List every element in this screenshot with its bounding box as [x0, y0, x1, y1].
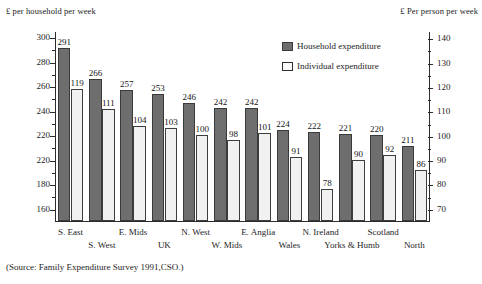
bar-value-label-household: 291 [53, 37, 75, 47]
bar-value-label-individual: 86 [411, 159, 431, 169]
bar-household [183, 103, 196, 221]
source-caption: (Source: Family Expenditure Survey 1991,… [6, 262, 183, 272]
bar-household [120, 90, 133, 221]
bar-individual [383, 155, 396, 221]
right-tick-label: 140 [437, 33, 451, 43]
bar-value-label-household: 253 [147, 83, 169, 93]
right-minor-tick-mark [428, 51, 431, 52]
bar-group: 246100 [183, 31, 209, 221]
left-minor-tick-mark [52, 124, 55, 125]
bar-household [402, 146, 415, 221]
bar-individual [102, 109, 115, 221]
right-minor-tick-mark [428, 149, 431, 150]
left-axis-title: £ per household per week [6, 6, 96, 16]
bar-household [308, 132, 321, 220]
bar-value-label-household: 222 [303, 121, 325, 131]
category-label: W. Mids [195, 240, 259, 250]
right-tick-label: 90 [437, 155, 446, 165]
category-label: Wales [257, 240, 321, 250]
left-tick-label: 180 [37, 179, 51, 189]
bar-value-label-household: 246 [178, 92, 200, 102]
right-tick-label: 70 [437, 204, 446, 214]
bar-group: 291119 [58, 31, 84, 221]
right-tick-label: 120 [437, 82, 451, 92]
left-minor-tick-mark [52, 50, 55, 51]
left-minor-tick-mark [52, 197, 55, 198]
bar-individual [321, 189, 334, 221]
bar-group: 24298 [214, 31, 240, 221]
right-tick-mark [428, 137, 433, 138]
expenditure-bar-chart: £ per household per week £ Per person pe… [0, 0, 482, 284]
bar-group: 22278 [308, 31, 334, 221]
left-tick-label: 280 [37, 57, 51, 67]
bar-household [277, 130, 290, 221]
bar-value-label-household: 224 [272, 119, 294, 129]
bar-value-label-household: 221 [334, 123, 356, 133]
bar-value-label-individual: 111 [98, 98, 118, 108]
left-axis-line [55, 32, 56, 222]
bar-group: 22190 [339, 31, 365, 221]
category-label: S. East [39, 227, 103, 237]
bar-value-label-household: 242 [241, 97, 263, 107]
bar-value-label-household: 257 [116, 79, 138, 89]
left-tick-mark [50, 210, 55, 211]
bar-individual [258, 133, 271, 221]
category-label: Scotland [351, 227, 415, 237]
left-tick-label: 300 [37, 32, 51, 42]
bar-household [58, 48, 71, 221]
bar-group: 242101 [245, 31, 271, 221]
bar-value-label-household: 266 [84, 68, 106, 78]
right-minor-tick-mark [428, 198, 431, 199]
bar-individual [352, 160, 365, 221]
right-tick-label: 100 [437, 131, 451, 141]
right-axis-line [429, 32, 430, 222]
bar-household [214, 108, 227, 221]
bar-value-label-individual: 98 [223, 129, 243, 139]
bar-value-label-individual: 104 [130, 115, 150, 125]
bar-value-label-household: 211 [397, 135, 419, 145]
plot-area: 300280260240220220180160 140130120110100… [55, 32, 430, 222]
bar-individual [290, 157, 303, 220]
left-tick-label: 220 [37, 130, 51, 140]
left-minor-tick-mark [52, 148, 55, 149]
right-minor-tick-mark [428, 173, 431, 174]
bar-value-label-individual: 90 [348, 149, 368, 159]
bar-value-label-household: 220 [366, 124, 388, 134]
left-tick-label: 220 [37, 155, 51, 165]
bar-group: 253103 [152, 31, 178, 221]
right-axis-title: £ Per person per week [400, 6, 478, 16]
bar-household [152, 94, 165, 220]
bar-value-label-household: 242 [209, 97, 231, 107]
right-tick-mark [428, 88, 433, 89]
bar-value-label-individual: 103 [161, 117, 181, 127]
left-tick-label: 260 [37, 81, 51, 91]
bar-value-label-individual: 100 [192, 124, 212, 134]
right-tick-mark [428, 185, 433, 186]
category-label: N. Ireland [289, 227, 353, 237]
category-label: North [382, 240, 446, 250]
left-tick-mark [50, 63, 55, 64]
left-tick-mark [50, 136, 55, 137]
right-tick-label: 130 [437, 58, 451, 68]
right-tick-mark [428, 112, 433, 113]
category-label: E. Mids [101, 227, 165, 237]
right-tick-label: 110 [437, 106, 450, 116]
left-minor-tick-mark [52, 99, 55, 100]
left-tick-mark [50, 185, 55, 186]
bar-group: 266111 [89, 31, 115, 221]
left-tick-mark [50, 161, 55, 162]
right-minor-tick-mark [428, 76, 431, 77]
bar-individual [71, 89, 84, 221]
bar-group: 22092 [370, 31, 396, 221]
left-minor-tick-mark [52, 173, 55, 174]
bar-value-label-individual: 92 [380, 144, 400, 154]
category-label: S. West [70, 240, 134, 250]
right-tick-mark [428, 64, 433, 65]
bar-group: 21186 [402, 31, 428, 221]
left-tick-mark [50, 87, 55, 88]
bar-value-label-individual: 91 [286, 146, 306, 156]
left-minor-tick-mark [52, 75, 55, 76]
left-tick-label: 240 [37, 106, 51, 116]
right-tick-mark [428, 210, 433, 211]
bar-individual [227, 140, 240, 220]
